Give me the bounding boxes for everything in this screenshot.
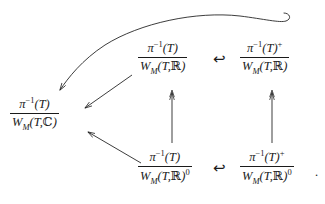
hook-arrow-top-right-to-top-middle: ↩ — [213, 52, 226, 67]
quotient-pi-inverse-T-by-WM-T-C: π−1(T) WM(T,ℂ) — [10, 96, 59, 132]
node-top-right-denominator: WM(T,ℝ) — [240, 59, 289, 76]
fraction-rule — [240, 166, 294, 167]
node-bottom-middle-numerator: π−1(T) — [148, 149, 183, 164]
quotient-pi-inverse-T-by-WM-T-R: π−1(T) WM(T,ℝ) — [138, 40, 187, 76]
quotient-pi-inverse-T-by-WM-T-R-zero: π−1(T) WM(T,ℝ)0 — [138, 149, 192, 186]
node-left-denominator: WM(T,ℂ) — [10, 115, 59, 132]
quotient-pi-inverse-T-plus-by-WM-T-R-zero: π−1(T)+ WM(T,ℝ)0 — [240, 149, 294, 186]
node-top-middle-numerator: π−1(T) — [145, 40, 180, 55]
trailing-period: . — [315, 165, 318, 180]
node-top-right-numerator: π−1(T)+ — [245, 40, 284, 55]
node-bottom-middle-denominator: WM(T,ℝ)0 — [138, 168, 192, 186]
node-bottom-right-denominator: WM(T,ℝ)0 — [240, 168, 294, 186]
fraction-rule — [138, 166, 192, 167]
commutative-diagram: π−1(T) WM(T,ℂ) π−1(T) WM(T,ℝ) π−1(T)+ WM… — [0, 0, 325, 204]
arrow-bottom-middle-to-left — [88, 132, 141, 163]
hook-arrow-bottom-right-to-bottom-middle: ↩ — [213, 161, 226, 176]
node-top-middle-denominator: WM(T,ℝ) — [138, 59, 187, 76]
quotient-pi-inverse-T-plus-by-WM-T-R: π−1(T)+ WM(T,ℝ) — [240, 40, 289, 76]
node-bottom-right-numerator: π−1(T)+ — [247, 149, 286, 164]
arrow-top-middle-to-left — [85, 75, 132, 108]
node-left-numerator: π−1(T) — [17, 96, 52, 111]
